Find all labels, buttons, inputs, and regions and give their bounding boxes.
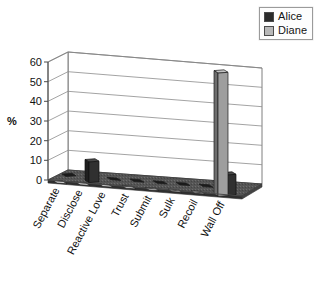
bar-alice-disclose-front: [85, 160, 89, 183]
y-tick-marks: [44, 62, 48, 180]
y-tick-30: 30: [30, 115, 42, 127]
y-tick-20: 20: [30, 135, 42, 147]
x-label-sulk: Sulk: [156, 195, 177, 220]
x-tick-labels: Separate Disclose Reactive Love Trust Su…: [30, 185, 227, 256]
y-tick-50: 50: [30, 76, 42, 88]
y-tick-60: 60: [30, 56, 42, 68]
bar-diane-wall-off-front: [214, 71, 218, 197]
chart-plot-area: 60 50 40 30 20 10 0 % Separate Disclose …: [0, 0, 325, 283]
x-label-wall-off: Wall Off: [198, 198, 227, 238]
y-axis-title: %: [7, 115, 17, 127]
chart-figure: Alice Diane: [0, 0, 325, 283]
y-tick-10: 10: [30, 154, 42, 166]
x-label-submit: Submit: [127, 193, 154, 229]
y-tick-labels: 60 50 40 30 20 10 0: [30, 56, 42, 186]
y-tick-0: 0: [36, 174, 42, 186]
x-label-recoil: Recoil: [175, 197, 200, 230]
bar-alice-disclose: [85, 159, 99, 183]
bar-diane-wall-off-side: [218, 72, 228, 196]
bar-diane-wall-off: [214, 70, 228, 197]
x-label-trust: Trust: [109, 191, 131, 218]
y-tick-40: 40: [30, 95, 42, 107]
bar-alice-disclose-side: [89, 161, 99, 182]
